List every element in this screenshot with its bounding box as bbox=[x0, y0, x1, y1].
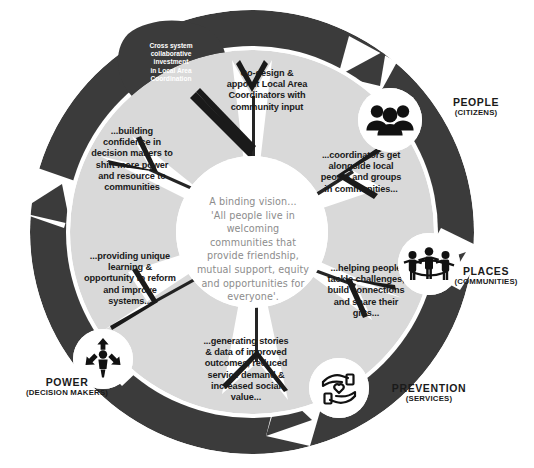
pillar-prevention-title: PREVENTION bbox=[374, 382, 484, 394]
segment-label-providing-learning: ...providing unique learning & opportuni… bbox=[68, 251, 192, 307]
pillar-power-title: POWER bbox=[8, 376, 126, 388]
segment-label-building-confidence: ...building confidence in decision maker… bbox=[74, 126, 190, 193]
segment-label-coordinators: ...coordinators get alongside local peop… bbox=[303, 150, 419, 195]
prevention-icon-badge bbox=[309, 358, 369, 418]
diagram-canvas: A binding vision... 'All people live in … bbox=[0, 0, 534, 468]
pillar-people-subtitle: (CITIZENS) bbox=[424, 108, 528, 117]
pillar-prevention-subtitle: (SERVICES) bbox=[374, 394, 484, 403]
pillar-people: PEOPLE (CITIZENS) bbox=[424, 96, 528, 117]
center-vision-text: A binding vision... 'All people live in … bbox=[186, 195, 320, 304]
people-icon-badge bbox=[358, 88, 422, 152]
pillar-prevention: PREVENTION (SERVICES) bbox=[374, 382, 484, 403]
pillar-people-title: PEOPLE bbox=[424, 96, 528, 108]
pillar-places: PLACES (COMMUNITIES) bbox=[440, 265, 532, 286]
pillar-power-subtitle: (DECISION MAKERS) bbox=[8, 388, 126, 397]
pillar-places-title: PLACES bbox=[440, 265, 532, 277]
pillar-places-subtitle: (COMMUNITIES) bbox=[440, 277, 532, 286]
group-of-people-icon bbox=[358, 88, 422, 152]
pillar-power: POWER (DECISION MAKERS) bbox=[8, 376, 126, 397]
cross-system-investment-label: Cross system collaborative investment in… bbox=[131, 42, 211, 83]
hands-holding-heart-icon bbox=[309, 358, 369, 418]
segment-label-generating-stories: ...generating stories & data of improved… bbox=[184, 336, 308, 403]
segment-label-co-design: Co-design & appoint Local Area Coordinat… bbox=[205, 68, 329, 113]
